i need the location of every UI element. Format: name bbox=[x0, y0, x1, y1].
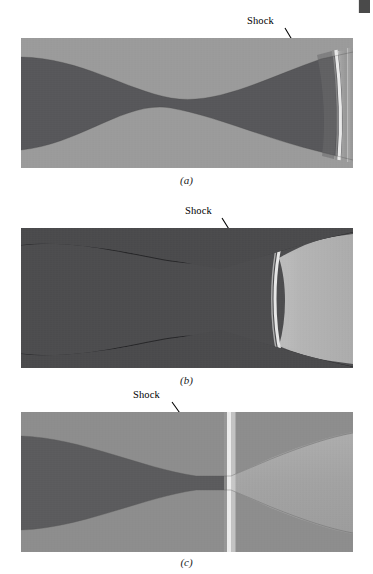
panel-caption-c: (c) bbox=[0, 556, 373, 568]
figure-container: Shock bbox=[0, 0, 373, 574]
panel-caption-a: (a) bbox=[0, 174, 373, 186]
panel-c-flowfield bbox=[21, 412, 353, 552]
panel-b-flowfield bbox=[21, 228, 353, 368]
page-edge-mark bbox=[358, 0, 370, 13]
shock-label-a: Shock bbox=[247, 15, 274, 26]
panel-a-flowfield bbox=[21, 38, 353, 168]
panel-b-contour-svg bbox=[21, 228, 353, 368]
panel-c-contour-svg bbox=[21, 412, 353, 552]
shock-label-c: Shock bbox=[133, 389, 160, 400]
panel-a-contour-svg bbox=[21, 38, 353, 168]
shock-label-b: Shock bbox=[185, 205, 212, 216]
panel-caption-b: (b) bbox=[0, 374, 373, 386]
